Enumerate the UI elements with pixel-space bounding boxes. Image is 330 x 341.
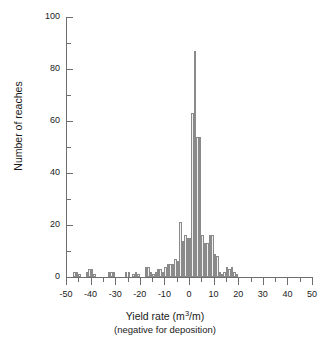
x-tick xyxy=(238,278,239,285)
y-tick xyxy=(67,251,71,252)
y-tick xyxy=(67,147,71,148)
x-axis-subtitle: (negative for deposition) xyxy=(0,324,330,335)
x-tick xyxy=(300,278,301,282)
y-tick xyxy=(67,199,71,200)
y-tick xyxy=(67,17,73,18)
x-tick xyxy=(177,278,178,282)
y-tick xyxy=(67,121,73,122)
y-tick-label: 80 xyxy=(18,63,60,73)
x-tick xyxy=(226,278,227,282)
x-tick xyxy=(115,278,116,285)
x-tick xyxy=(164,278,165,285)
x-tick xyxy=(263,278,264,285)
y-tick-label: 0 xyxy=(18,271,60,281)
y-tick-label: 100 xyxy=(18,11,60,21)
plot-area xyxy=(66,17,312,277)
x-tick-label: 50 xyxy=(292,289,330,299)
x-tick xyxy=(287,278,288,285)
x-tick xyxy=(189,278,190,285)
x-tick xyxy=(251,278,252,282)
y-tick-label: 20 xyxy=(18,219,60,229)
x-tick xyxy=(275,278,276,282)
y-tick xyxy=(67,43,71,44)
y-tick-label: 60 xyxy=(18,115,60,125)
x-axis-title: Yield rate (m3/m) xyxy=(0,308,330,322)
y-tick-label: 40 xyxy=(18,167,60,177)
x-tick xyxy=(128,278,129,282)
x-tick xyxy=(214,278,215,285)
y-tick xyxy=(67,95,71,96)
x-tick xyxy=(312,278,313,285)
y-tick xyxy=(67,277,73,278)
y-tick xyxy=(67,225,73,226)
x-tick xyxy=(140,278,141,285)
x-tick xyxy=(201,278,202,282)
y-tick xyxy=(67,173,73,174)
x-tick xyxy=(66,278,67,285)
x-tick xyxy=(78,278,79,282)
histogram-figure: Number of reaches Yield rate (m3/m) (neg… xyxy=(0,0,330,341)
x-axis-title-text: Yield rate (m3/m) xyxy=(126,310,205,322)
x-tick xyxy=(91,278,92,285)
x-tick xyxy=(152,278,153,282)
x-tick xyxy=(103,278,104,282)
y-tick xyxy=(67,69,73,70)
